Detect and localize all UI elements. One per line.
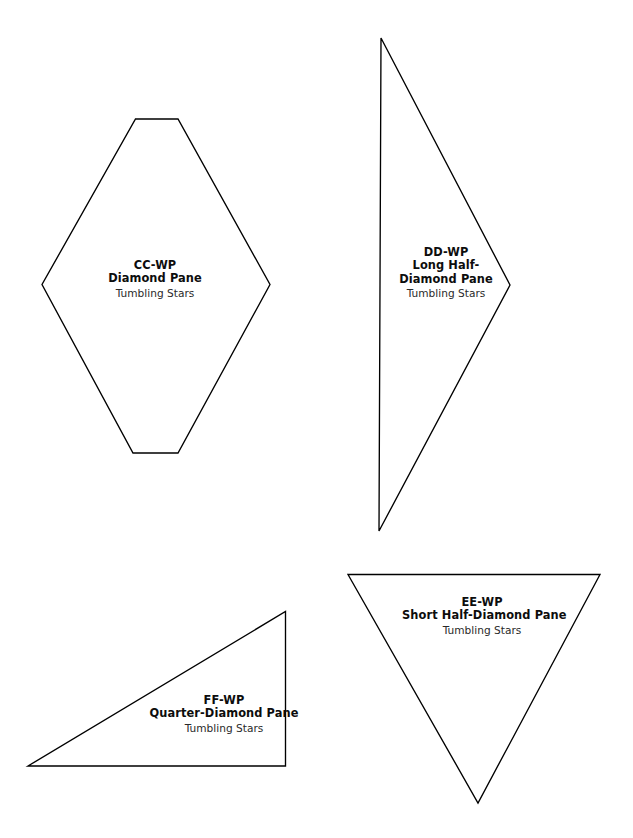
shape-cc-wp-diamond-pane [42,119,270,453]
template-sheet: CC-WP Diamond Pane Tumbling Stars DD-WP … [0,0,633,838]
shape-ff-wp-quarter-diamond-pane [28,612,286,767]
shape-dd-wp-long-half-diamond-pane [379,38,510,531]
shape-ee-wp-short-half-diamond-pane [348,575,600,804]
template-shapes-canvas [0,0,633,838]
